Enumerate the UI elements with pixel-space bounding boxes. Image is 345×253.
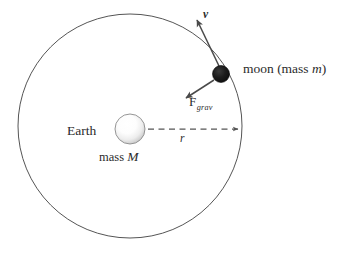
velocity-label: v [203, 9, 208, 21]
force-subscript: grav [197, 103, 213, 112]
orbit-diagram-canvas [0, 0, 345, 253]
earth-label: Earth [67, 124, 96, 138]
moon-label: moon (mass m) [243, 62, 326, 76]
earth-sphere [115, 114, 145, 144]
earth-mass-prefix: mass [99, 150, 127, 164]
moon-body [213, 66, 230, 83]
physics-diagram-figure: Earth mass M moon (mass m) v Fgrav r [0, 0, 345, 253]
moon-label-prefix: moon (mass [243, 61, 312, 76]
earth-mass-symbol: M [127, 149, 138, 164]
gravity-force-label: Fgrav [189, 95, 212, 108]
moon-mass-symbol: m [312, 61, 322, 76]
force-base-symbol: F [189, 94, 196, 109]
radius-label: r [180, 133, 184, 145]
earth-mass-label: mass M [99, 150, 138, 164]
moon-label-suffix: ) [322, 61, 327, 76]
velocity-arrow [197, 20, 219, 66]
